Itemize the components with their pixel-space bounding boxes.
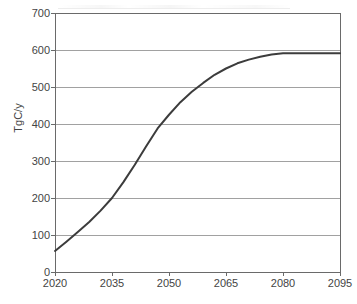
plot-area	[0, 0, 357, 304]
gridlines	[55, 13, 340, 272]
data-series-layer	[55, 53, 340, 251]
axes	[55, 13, 340, 272]
series-line-emissions	[55, 53, 340, 251]
chart-container: TgC/y 0100200300400500600700 20202035205…	[0, 0, 357, 304]
